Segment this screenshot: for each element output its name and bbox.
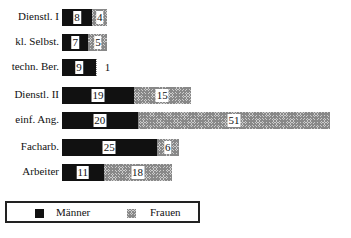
- bar-row: Dienstl. I84: [0, 9, 351, 26]
- value-label: 18: [131, 166, 144, 179]
- bar-row: einf. Ang.2051: [0, 112, 351, 129]
- value-label: 8: [73, 11, 81, 24]
- category-label: kl. Selbst.: [15, 35, 59, 47]
- value-label: 1: [104, 61, 112, 74]
- category-label: einf. Ang.: [15, 113, 59, 125]
- bar-row: Arbeiter1118: [0, 164, 351, 181]
- bar-row: Facharb.256: [0, 139, 351, 156]
- category-label: Facharb.: [21, 140, 59, 152]
- legend-label-women: Frauen: [150, 206, 181, 218]
- bar-row: Dienstl. II1915: [0, 87, 351, 104]
- value-label: 4: [96, 11, 104, 24]
- value-label: 9: [75, 61, 83, 74]
- value-label: 25: [103, 141, 116, 154]
- legend: Männer Frauen: [5, 201, 200, 223]
- legend-label-men: Männer: [56, 206, 90, 218]
- bar-row: kl. Selbst.75: [0, 34, 351, 51]
- bar-women: [96, 59, 101, 76]
- category-label: techn. Ber.: [12, 60, 59, 72]
- value-label: 11: [76, 166, 89, 179]
- category-label: Dienstl. I: [18, 10, 59, 22]
- legend-swatch-men: [35, 209, 44, 218]
- category-label: Dienstl. II: [14, 88, 59, 100]
- value-label: 51: [227, 114, 240, 127]
- value-label: 19: [91, 89, 104, 102]
- legend-swatch-women: [127, 209, 136, 218]
- value-label: 15: [156, 89, 169, 102]
- value-label: 6: [164, 141, 172, 154]
- value-label: 5: [94, 36, 102, 49]
- category-label: Arbeiter: [22, 165, 59, 177]
- value-label: 7: [71, 36, 79, 49]
- bar-row: techn. Ber.91: [0, 59, 351, 76]
- value-label: 20: [93, 114, 106, 127]
